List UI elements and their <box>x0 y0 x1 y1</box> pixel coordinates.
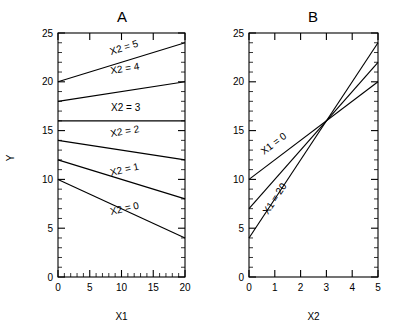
panel-b-plot-frame <box>249 33 378 277</box>
figure-container: A <box>0 0 397 333</box>
panel-b-ytick-25: 25 <box>233 28 245 39</box>
panel-b-xaxis-title: X2 <box>307 311 320 322</box>
panel-b-xtick-4: 4 <box>349 282 355 293</box>
panel-b-title: B <box>308 8 318 25</box>
panel-b-xtick-2: 2 <box>298 282 304 293</box>
panel-a-x-tick-labels: 0 5 10 15 20 <box>55 282 191 293</box>
panel-b-ytick-20: 20 <box>233 76 245 87</box>
panel-b-ytick-15: 15 <box>233 125 245 136</box>
panel-a-xaxis-title: X1 <box>115 311 128 322</box>
panel-a: A <box>5 8 191 322</box>
panel-a-y-tick-labels: 0 5 10 15 20 25 <box>42 28 54 283</box>
panel-b-xtick-1: 1 <box>272 282 278 293</box>
panel-b-xtick-5: 5 <box>375 282 381 293</box>
panel-a-xtick-0: 0 <box>55 282 61 293</box>
panel-b: B <box>233 8 381 322</box>
panel-a-title: A <box>117 8 127 25</box>
interaction-plot-figure: A <box>0 0 397 333</box>
panel-a-xtick-5: 5 <box>87 282 93 293</box>
panel-b-xtick-3: 3 <box>324 282 330 293</box>
panel-a-ytick-15: 15 <box>42 125 54 136</box>
panel-a-xtick-15: 15 <box>148 282 160 293</box>
panel-b-ytick-0: 0 <box>238 272 244 283</box>
panel-a-xtick-20: 20 <box>179 282 191 293</box>
panel-a-ytick-0: 0 <box>47 272 53 283</box>
panel-b-xtick-0: 0 <box>246 282 252 293</box>
panel-a-label-x2-3: X2 = 3 <box>111 102 141 113</box>
panel-a-ytick-25: 25 <box>42 28 54 39</box>
panel-a-xtick-10: 10 <box>116 282 128 293</box>
panel-b-y-tick-labels: 0 5 10 15 20 25 <box>233 28 245 283</box>
panel-b-ytick-10: 10 <box>233 174 245 185</box>
panel-a-ytick-10: 10 <box>42 174 54 185</box>
panel-b-x-tick-labels: 0 1 2 3 4 5 <box>246 282 381 293</box>
panel-b-ytick-5: 5 <box>238 223 244 234</box>
panel-a-ytick-20: 20 <box>42 76 54 87</box>
panel-a-ytick-5: 5 <box>47 223 53 234</box>
y-axis-title: Y <box>5 154 16 161</box>
